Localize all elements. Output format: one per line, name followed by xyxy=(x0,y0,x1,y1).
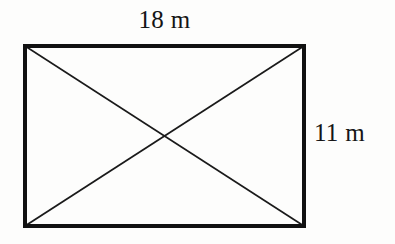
figure-container: 18 m 11 m xyxy=(0,0,395,244)
width-dimension-label: 18 m xyxy=(0,7,329,32)
height-dimension-label: 11 m xyxy=(314,120,365,145)
